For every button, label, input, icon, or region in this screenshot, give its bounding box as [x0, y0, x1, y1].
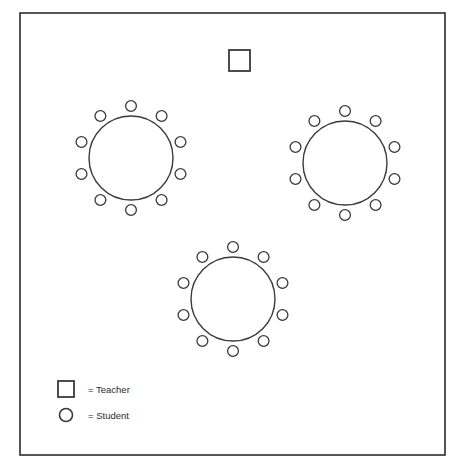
legend-student-label: = Student: [88, 410, 129, 421]
student-seat[interactable]: [126, 205, 137, 216]
student-seat[interactable]: [76, 169, 87, 180]
student-seat[interactable]: [290, 174, 301, 185]
student-seat[interactable]: [76, 137, 87, 148]
student-seat[interactable]: [156, 195, 167, 206]
student-seat[interactable]: [228, 346, 239, 357]
student-seat[interactable]: [389, 142, 400, 153]
student-seat[interactable]: [309, 116, 320, 127]
teacher-desk[interactable]: [229, 50, 250, 71]
classroom-seating-diagram: = Teacher = Student: [0, 0, 463, 472]
student-seat[interactable]: [370, 116, 381, 127]
student-seat[interactable]: [370, 200, 381, 211]
student-seat[interactable]: [258, 252, 269, 263]
student-seat[interactable]: [126, 101, 137, 112]
student-seat[interactable]: [95, 195, 106, 206]
student-seat[interactable]: [156, 111, 167, 122]
room-border: [20, 13, 445, 455]
student-seat[interactable]: [228, 242, 239, 253]
student-seat[interactable]: [197, 336, 208, 347]
student-seat[interactable]: [95, 111, 106, 122]
student-seat[interactable]: [340, 106, 351, 117]
legend-entry-student: = Student: [60, 409, 130, 422]
student-seat[interactable]: [178, 310, 189, 321]
student-seat[interactable]: [175, 169, 186, 180]
student-seat[interactable]: [340, 210, 351, 221]
student-seat[interactable]: [197, 252, 208, 263]
legend-teacher-label: = Teacher: [88, 384, 130, 395]
student-seat[interactable]: [178, 278, 189, 289]
student-seat[interactable]: [290, 142, 301, 153]
legend-entry-teacher: = Teacher: [58, 381, 130, 397]
student-seat[interactable]: [309, 200, 320, 211]
legend-student-circle-icon: [60, 409, 73, 422]
student-seat[interactable]: [277, 310, 288, 321]
student-seat[interactable]: [258, 336, 269, 347]
student-seat[interactable]: [277, 278, 288, 289]
student-seat[interactable]: [389, 174, 400, 185]
legend-teacher-square-icon: [58, 381, 74, 397]
student-seat[interactable]: [175, 137, 186, 148]
